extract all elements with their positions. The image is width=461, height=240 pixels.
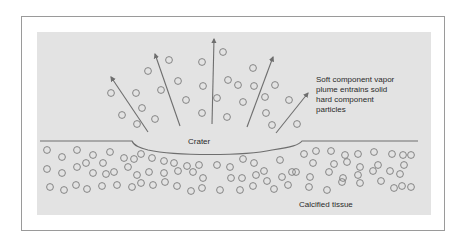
plume-particle xyxy=(263,110,270,117)
tissue-particle xyxy=(357,180,364,187)
plume-label: Soft component vapor plume entrains soli… xyxy=(316,75,436,115)
tissue-particle xyxy=(73,182,80,189)
tissue-particle xyxy=(400,152,407,159)
tissue-particle xyxy=(74,164,81,171)
tissue-particle xyxy=(250,183,257,190)
tissue-particle xyxy=(408,184,415,191)
plume-particle xyxy=(134,121,141,128)
plume-particle xyxy=(133,90,140,97)
tissue-particle xyxy=(111,169,118,176)
tissue-particle xyxy=(129,184,136,191)
tissue-particle xyxy=(150,182,157,189)
tissue-particle xyxy=(99,183,106,190)
tissue-particle xyxy=(342,152,349,159)
plume-particle xyxy=(294,121,301,128)
tissue-particle xyxy=(313,148,320,155)
plume-particle xyxy=(240,99,247,106)
tissue-particle xyxy=(344,159,351,166)
tissue-particle xyxy=(162,179,169,186)
tissue-particle xyxy=(200,175,207,182)
plume-arrow xyxy=(247,57,273,127)
plume-particle xyxy=(262,94,269,101)
tissue-particle xyxy=(74,147,81,154)
tissue-particle xyxy=(331,161,338,168)
tissue-particle xyxy=(355,151,362,158)
tissue-particle xyxy=(285,182,292,189)
plume-particle xyxy=(269,122,276,129)
plume-particle xyxy=(183,97,190,104)
plume-label-line: particles xyxy=(316,105,436,115)
tissue-particle xyxy=(239,175,246,182)
laser-ablation-diagram xyxy=(0,0,461,240)
tissue-particle xyxy=(307,174,314,181)
tissue-particle xyxy=(121,155,128,162)
tissue-particle xyxy=(100,160,107,167)
plume-particle xyxy=(224,114,231,121)
tissue-particle xyxy=(355,172,362,179)
tissue-particle xyxy=(301,151,308,158)
tissue-particle xyxy=(44,166,51,173)
tissue-particle xyxy=(324,187,331,194)
tissue-particle xyxy=(279,174,286,181)
plume-arrow xyxy=(212,39,214,124)
tissue-particle xyxy=(251,160,258,167)
tissue-particle xyxy=(84,186,91,193)
tissue-particle xyxy=(271,186,278,193)
tissue-particle xyxy=(90,152,97,159)
plume-label-line: plume entrains solid xyxy=(316,85,436,95)
tissue-particle xyxy=(47,184,54,191)
plume-particle xyxy=(286,97,293,104)
tissue-particle xyxy=(44,147,51,154)
plume-particle xyxy=(272,82,279,89)
plume-arrow xyxy=(155,54,180,126)
tissue-particle xyxy=(237,187,244,194)
tissue-particle xyxy=(306,184,313,191)
tissue-particle xyxy=(190,169,197,176)
plume-label-line: hard component xyxy=(316,95,436,105)
tissue-particle xyxy=(397,171,404,178)
tissue-particle xyxy=(399,183,406,190)
tissue-particle xyxy=(277,157,284,164)
plume-particle xyxy=(225,77,232,84)
tissue-particle xyxy=(227,164,234,171)
tissue-particle xyxy=(174,183,181,190)
tissue-particle xyxy=(387,168,394,175)
plume-particle xyxy=(199,59,206,66)
tissue-particle xyxy=(175,168,182,175)
tissue-particle xyxy=(371,149,378,156)
calcified-tissue-label: Calcified tissue xyxy=(299,200,353,210)
plume-particle xyxy=(139,105,146,112)
tissue-particle xyxy=(370,168,377,175)
tissue-particle xyxy=(59,170,66,177)
tissue-particle xyxy=(184,163,191,170)
tissue-particle xyxy=(326,169,333,176)
tissue-particle xyxy=(59,154,66,161)
plume-particle xyxy=(251,83,258,90)
tissue-particle xyxy=(199,185,206,192)
tissue-particle xyxy=(138,180,145,187)
plume-particle xyxy=(152,116,159,123)
plume-particle xyxy=(235,82,242,89)
tissue-particle xyxy=(134,172,141,179)
tissue-particle xyxy=(228,175,235,182)
tissue-particle xyxy=(103,171,110,178)
plume-particle xyxy=(220,49,227,56)
plume-particle xyxy=(250,65,257,72)
tissue-particle xyxy=(217,187,224,194)
plume-particle xyxy=(145,68,152,75)
crater-label: Crater xyxy=(188,137,210,147)
tissue-particle xyxy=(161,170,168,177)
tissue-particle xyxy=(310,160,317,167)
plume-particle xyxy=(175,78,182,85)
plume-label-line: Soft component vapor xyxy=(316,75,436,85)
tissue-particle xyxy=(90,170,97,177)
tissue-particle xyxy=(61,187,68,194)
tissue-particle xyxy=(253,172,260,179)
tissue-particle xyxy=(196,162,203,169)
tissue-particle xyxy=(171,160,178,167)
tissue-particle xyxy=(161,158,168,165)
plume-particle xyxy=(214,95,221,102)
tissue-particle xyxy=(264,178,271,185)
tissue-particle xyxy=(125,164,132,171)
tissue-particle xyxy=(289,169,296,176)
